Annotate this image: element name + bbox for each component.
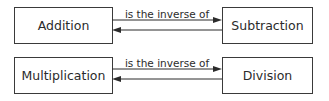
addition-label: Addition xyxy=(38,18,90,33)
multiplication-label: Multiplication xyxy=(22,68,106,83)
inverse-relation-1: is the inverse of xyxy=(112,8,222,38)
bidirectional-arrows-icon xyxy=(112,8,222,38)
addition-box: Addition xyxy=(14,7,113,44)
inverse-relation-2: is the inverse of xyxy=(112,57,222,87)
multiplication-box: Multiplication xyxy=(14,57,113,94)
bidirectional-arrows-icon xyxy=(112,57,222,87)
division-label: Division xyxy=(243,68,293,83)
subtraction-label: Subtraction xyxy=(231,18,303,33)
division-box: Division xyxy=(222,57,313,94)
subtraction-box: Subtraction xyxy=(222,7,313,44)
